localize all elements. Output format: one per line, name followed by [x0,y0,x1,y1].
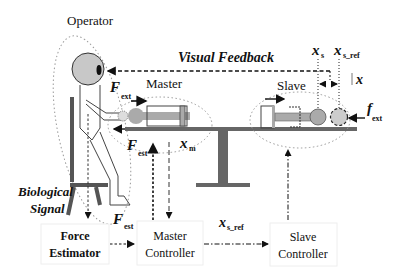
x-s-subscript: s [321,51,324,60]
operator-label: Operator [67,13,114,28]
operator-body [80,85,100,140]
slave-piston [272,106,275,128]
master-label: Master [146,76,183,91]
master-controller-label-line2: Controller [145,246,194,260]
operator-hand [118,111,128,121]
visual-feedback-label: Visual Feedback [178,50,274,65]
slave-label: Slave [277,78,306,93]
chair-back [70,97,74,182]
base-foot [196,183,250,187]
slave-controller-block[interactable]: Slave Controller [270,223,337,266]
x-sref-subscript: s_ref [343,51,360,60]
master-controller-label-line1: Master [153,229,186,243]
F-est2-subscript: est [124,222,134,231]
x-m-subscript: m [189,144,196,153]
x-sref2-subscript: s_ref [227,223,244,232]
teleoperation-diagram: Operator Master F ext F est x m Visual F… [0,0,397,280]
master-controller-block[interactable]: Master Controller [137,221,203,265]
x-sref-symbol: x [333,42,342,58]
F-est-subscript: est [138,149,148,158]
x-sref2-symbol: x [218,215,226,230]
operator-eye [97,65,102,75]
F-ext-subscript: ext [121,92,132,101]
master-piston [180,106,185,126]
biological-signal-label-line1: Biological [17,184,73,199]
x-m-symbol: x [179,135,188,151]
operator-arm [86,100,122,120]
F-est2-symbol: F [112,211,123,227]
f-ext-subscript: ext [372,114,383,123]
slave-end-effector [310,109,326,125]
slave-reference-position [331,109,348,126]
force-estimator-block[interactable]: Force Estimator [41,224,109,264]
slave-controller-label-line1: Slave [290,230,317,244]
x-s-symbol: x [311,42,320,58]
slave-controller-label-line2: Controller [278,247,327,261]
master-region [108,97,212,153]
base-stand [218,131,228,183]
F-est-symbol: F [126,137,137,153]
biological-signal-label-line2: Signal [30,201,65,216]
base-beam [125,127,357,131]
chair-seat [70,183,108,187]
force-estimator-label-line1: Force [60,229,90,243]
F-ext-symbol: F [109,79,120,95]
force-estimator-label-line2: Estimator [49,246,101,260]
delta-x-symbol: x [355,72,363,87]
